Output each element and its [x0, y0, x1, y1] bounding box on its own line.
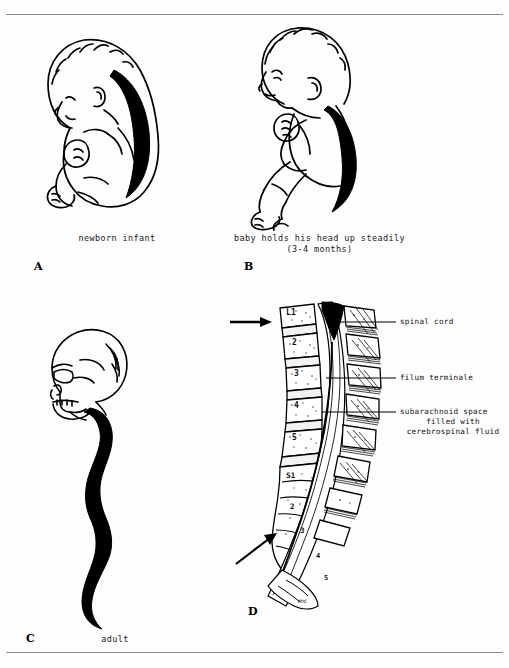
subarachnoid-space-label-line2: filled with — [400, 417, 506, 427]
spinal-cord-shape-c — [82, 408, 112, 629]
figure-page: newborn infant A — [0, 0, 509, 668]
panel-d-illustration: mc — [228, 300, 418, 620]
panel-a-letter: A — [34, 260, 43, 273]
coccyx — [268, 570, 318, 609]
panel-d-letter: D — [248, 605, 258, 618]
panel-c-letter: C — [26, 632, 35, 645]
spinal-cord-shape-b — [324, 106, 356, 212]
panel-b-caption-line1: baby holds his head up steadily — [212, 233, 427, 244]
spinal-cord-label: spinal cord — [400, 317, 454, 327]
vertebra-l2-body — [283, 333, 319, 359]
vertebra-l4-body — [286, 397, 322, 423]
upper-arrow — [230, 317, 272, 327]
panel-c-illustration — [40, 320, 190, 635]
subarachnoid-space-label: subarachnoid space — [400, 407, 488, 417]
panel-b-illustration — [232, 22, 402, 232]
panel-a-illustration — [22, 28, 212, 228]
panel-b-caption-line2: (3-4 months) — [212, 244, 427, 255]
panel-b-letter: B — [244, 260, 253, 273]
panel-a-caption: newborn infant — [22, 233, 212, 244]
filum-terminale-label: filum terminale — [400, 373, 473, 383]
panel-c-caption: adult — [60, 634, 170, 645]
top-border-rule — [6, 14, 503, 15]
lower-arrow — [236, 533, 277, 564]
spinal-cord-shape-a — [110, 70, 150, 198]
artist-signature: mc — [298, 597, 308, 604]
bottom-border-rule — [6, 652, 503, 653]
subarachnoid-space-label-line3: cerebrospinal fluid — [398, 427, 508, 437]
vertebra-l3-body — [286, 365, 321, 391]
